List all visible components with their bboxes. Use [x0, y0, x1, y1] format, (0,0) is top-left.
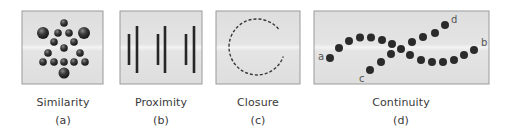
label-d: (d) [393, 114, 409, 127]
panel-continuity: a b c d [314, 11, 489, 84]
point-label-b: b [481, 37, 487, 48]
point-label-c: c [359, 73, 365, 84]
label-a: (a) [55, 114, 71, 127]
panel-frame [216, 11, 300, 84]
panel-proximity [120, 11, 202, 84]
caption-continuity: Continuity [372, 96, 430, 109]
label-b: (b) [153, 114, 169, 127]
caption-closure: Closure [237, 96, 279, 109]
caption-similarity: Similarity [36, 96, 89, 109]
point-label-d: d [451, 14, 457, 25]
figure-canvas: a b c d [0, 0, 508, 132]
label-c: (c) [251, 114, 266, 127]
panel-frame [120, 11, 202, 84]
point-label-a: a [318, 51, 324, 62]
gestalt-principles-figure: a b c d Similarity (a) Proximity (b) Clo… [0, 0, 508, 132]
caption-proximity: Proximity [135, 96, 187, 109]
panel-closure [216, 11, 300, 84]
panel-similarity [22, 11, 103, 84]
